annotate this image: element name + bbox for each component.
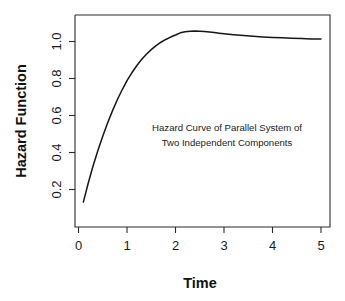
y-tick-label: 0.6 (49, 106, 64, 124)
x-tick-label: 5 (317, 238, 324, 253)
x-tick-label: 4 (269, 238, 276, 253)
y-tick-label: 0.2 (49, 180, 64, 198)
x-tick-label: 3 (220, 238, 227, 253)
chart-svg: 0 1 2 3 4 5 0.2 0.4 0.6 0.8 1.0 Time Haz… (0, 0, 345, 301)
y-tick-label: 0.4 (49, 143, 64, 161)
x-axis-title: Time (183, 275, 217, 291)
y-tick-label: 1.0 (49, 32, 64, 50)
annotation-line-2: Two Independent Components (162, 137, 293, 148)
x-tick-label: 0 (75, 238, 82, 253)
x-tick-label: 1 (123, 238, 130, 253)
y-tick-label: 0.8 (49, 69, 64, 87)
y-axis-title: Hazard Function (13, 64, 29, 178)
hazard-function-chart: 0 1 2 3 4 5 0.2 0.4 0.6 0.8 1.0 Time Haz… (0, 0, 345, 301)
annotation-line-1: Hazard Curve of Parallel System of (152, 122, 302, 133)
x-tick-label: 2 (172, 238, 179, 253)
